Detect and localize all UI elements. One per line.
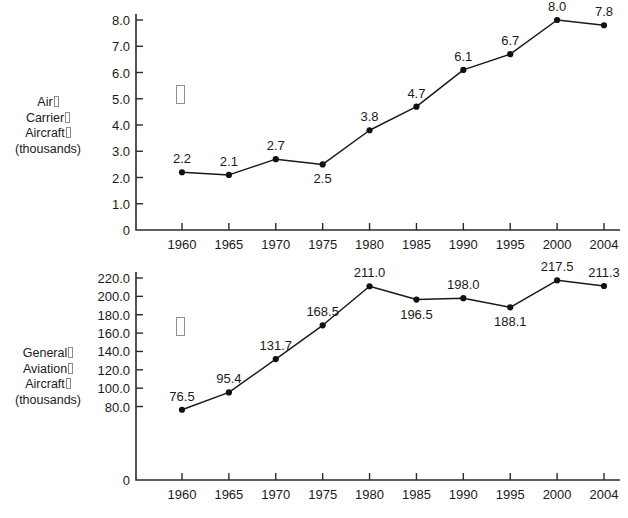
y-tick-label: 1.0 — [112, 198, 130, 211]
y-tick-label: 6.0 — [112, 67, 130, 80]
x-tick-label: 1980 — [344, 238, 396, 251]
x-tick-label: 1970 — [250, 488, 302, 501]
data-point-label: 2.5 — [293, 172, 353, 185]
x-tick-label: 2004 — [578, 238, 628, 251]
data-point-label: 95.4 — [199, 372, 259, 385]
x-tick-label: 1975 — [297, 488, 349, 501]
x-tick-label: 1980 — [344, 488, 396, 501]
data-point-label: 131.7 — [246, 339, 306, 352]
figure-two-line-charts: AirCarrierAircraft(thousands) 8.07.06.05… — [0, 0, 628, 518]
y-tick-label: 2.0 — [112, 172, 130, 185]
data-point-label: 2.7 — [246, 139, 306, 152]
y-tick-label: 200.0 — [97, 290, 130, 303]
y-tick-label: 100.0 — [97, 382, 130, 395]
y-tick-label: 120.0 — [97, 364, 130, 377]
x-tick-label: 1985 — [390, 238, 442, 251]
y-tick-label: 160.0 — [97, 327, 130, 340]
y-tick-label: 3.0 — [112, 145, 130, 158]
data-point-label: 6.7 — [480, 34, 540, 47]
data-point-label: 4.7 — [386, 87, 446, 100]
x-tick-label: 1970 — [250, 238, 302, 251]
y-tick-label: 8.0 — [112, 14, 130, 27]
x-tick-label: 1995 — [484, 488, 536, 501]
y-tick-label: 220.0 — [97, 272, 130, 285]
y-tick-label: 5.0 — [112, 93, 130, 106]
x-tick-label: 1990 — [437, 488, 489, 501]
y-tick-label: 140.0 — [97, 345, 130, 358]
data-point-label: 211.0 — [340, 266, 400, 279]
y-tick-label: 7.0 — [112, 40, 130, 53]
y-tick-label: 0 — [123, 224, 130, 237]
x-tick-label: 2000 — [531, 238, 583, 251]
chart-panel-air-carrier: AirCarrierAircraft(thousands) 8.07.06.05… — [0, 0, 628, 258]
x-tick-label: 2000 — [531, 488, 583, 501]
chart-panel-general-aviation: GeneralAviationAircraft(thousands) 220.0… — [0, 258, 628, 518]
x-tick-label: 2004 — [578, 488, 628, 501]
data-point-label: 6.1 — [433, 50, 493, 63]
x-tick-label: 1965 — [203, 238, 255, 251]
data-point-label: 7.8 — [574, 5, 628, 18]
x-tick-label: 1965 — [203, 488, 255, 501]
data-point-label: 168.5 — [293, 305, 353, 318]
general-aviation-plot — [0, 258, 628, 518]
y-tick-label: 180.0 — [97, 309, 130, 322]
data-point-label: 211.3 — [574, 266, 628, 279]
y-tick-label: 4.0 — [112, 119, 130, 132]
y-tick-label: 80.0 — [105, 401, 130, 414]
x-tick-label: 1960 — [156, 488, 208, 501]
data-point-label: 76.5 — [152, 390, 212, 403]
data-point-label: 196.5 — [386, 308, 446, 321]
y-tick-label: 0 — [123, 474, 130, 487]
x-tick-label: 1960 — [156, 238, 208, 251]
data-point-label: 188.1 — [480, 315, 540, 328]
data-point-label: 2.1 — [199, 155, 259, 168]
x-tick-label: 1975 — [297, 238, 349, 251]
x-tick-label: 1990 — [437, 238, 489, 251]
data-point-label: 3.8 — [340, 110, 400, 123]
x-tick-label: 1985 — [390, 488, 442, 501]
x-tick-label: 1995 — [484, 238, 536, 251]
data-point-label: 198.0 — [433, 278, 493, 291]
